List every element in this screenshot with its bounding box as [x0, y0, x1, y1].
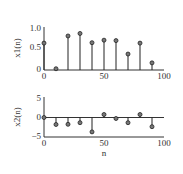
stem-marker: [102, 38, 106, 42]
bottom-stems: [42, 113, 154, 134]
stem-marker: [150, 61, 154, 65]
bottom-ytick-0: 0: [37, 112, 42, 122]
stem-marker: [114, 39, 118, 43]
stem-marker: [90, 130, 94, 134]
stem-marker: [78, 31, 82, 35]
bottom-plot: 5 0 −5 0 50 100 n x2(n): [12, 93, 171, 158]
stem-marker: [102, 113, 106, 117]
top-ytick-1: 1.0: [30, 23, 42, 33]
stem-marker: [114, 117, 118, 121]
stem-marker: [42, 41, 46, 45]
top-ytick-05: 0.5: [30, 42, 42, 52]
stem-marker: [138, 41, 142, 45]
bottom-ytick-neg5: −5: [31, 131, 41, 141]
top-ytick-0: 0: [37, 64, 42, 74]
stem-marker: [126, 121, 130, 125]
top-ylabel: x1(n): [12, 38, 22, 58]
top-xtick-100: 100: [157, 71, 171, 81]
stem-marker: [78, 121, 82, 125]
bottom-ylabel: x2(n): [12, 107, 22, 127]
stem-marker: [150, 125, 154, 129]
bottom-xtick-0: 0: [42, 138, 47, 148]
figure: 1.0 0.5 0 0 50 100 x1(n) 5 0 −5 0 50 100…: [0, 0, 183, 174]
top-stems: [42, 31, 154, 70]
stem-marker: [126, 52, 130, 56]
stem-marker: [42, 116, 46, 120]
stem-marker: [66, 34, 70, 38]
top-xtick-50: 50: [100, 71, 110, 81]
top-xtick-0: 0: [42, 71, 47, 81]
stem-marker: [54, 123, 58, 127]
bottom-xtick-100: 100: [157, 138, 171, 148]
stem-marker: [66, 122, 70, 126]
bottom-xtick-50: 50: [100, 138, 110, 148]
stem-marker: [90, 41, 94, 45]
bottom-xlabel: n: [102, 148, 107, 158]
top-plot: 1.0 0.5 0 0 50 100 x1(n): [12, 23, 171, 81]
stem-marker: [138, 113, 142, 117]
bottom-ytick-5: 5: [37, 93, 42, 103]
stem-marker: [54, 67, 58, 71]
